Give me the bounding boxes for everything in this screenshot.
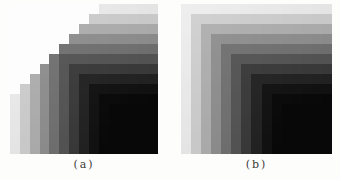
heatmap-cell <box>302 124 312 134</box>
heatmap-cell <box>221 74 231 84</box>
heatmap-cell <box>59 14 69 24</box>
heatmap-cell <box>59 4 69 14</box>
heatmap-cell <box>40 44 50 54</box>
heatmap-cell <box>89 84 99 94</box>
heatmap-cell <box>282 94 292 104</box>
heatmap-cell <box>221 24 231 34</box>
heatmap-cell <box>302 94 312 104</box>
heatmap-cell <box>148 14 158 24</box>
heatmap-cell <box>148 24 158 34</box>
heatmap-cell <box>79 144 89 154</box>
heatmap-cell <box>191 84 201 94</box>
heatmap-cell <box>69 54 79 64</box>
heatmap-cell <box>20 4 30 14</box>
heatmap-cell <box>241 94 251 104</box>
heatmap-cell <box>181 34 191 44</box>
heatmap-cell <box>89 94 99 104</box>
heatmap-cell <box>221 124 231 134</box>
heatmap-cell <box>201 74 211 84</box>
heatmap-cell <box>99 104 109 114</box>
heatmap-cell <box>119 24 129 34</box>
heatmap-cell <box>138 14 148 24</box>
heatmap-cell <box>20 54 30 64</box>
heatmap-cell <box>221 54 231 64</box>
heatmap-cell <box>49 104 59 114</box>
heatmap-cell <box>109 134 119 144</box>
heatmap-cell <box>138 64 148 74</box>
heatmap-cell <box>201 64 211 74</box>
heatmap-cell <box>128 44 138 54</box>
heatmap-cell <box>128 124 138 134</box>
heatmap-cell <box>241 74 251 84</box>
heatmap-cell <box>49 4 59 14</box>
heatmap-cell <box>119 144 129 154</box>
heatmap-cell <box>99 24 109 34</box>
caption-a: (a) <box>10 157 158 172</box>
heatmap-cell <box>262 14 272 24</box>
heatmap-cell <box>322 114 332 124</box>
heatmap-cell <box>312 24 322 34</box>
heatmap-cell <box>272 94 282 104</box>
heatmap-cell <box>241 124 251 134</box>
heatmap-cell <box>282 34 292 44</box>
heatmap-cell <box>312 74 322 84</box>
heatmap-cell <box>99 44 109 54</box>
heatmap-cell <box>10 124 20 134</box>
heatmap-cell <box>40 64 50 74</box>
heatmap-cell <box>282 144 292 154</box>
heatmap-cell <box>181 4 191 14</box>
heatmap-cell <box>241 54 251 64</box>
heatmap-cell <box>262 84 272 94</box>
heatmap-cell <box>40 104 50 114</box>
heatmap-cell <box>262 124 272 134</box>
heatmap-cell <box>30 134 40 144</box>
heatmap-cell <box>10 104 20 114</box>
heatmap-cell <box>181 104 191 114</box>
heatmap-cell <box>109 64 119 74</box>
heatmap-cell <box>20 34 30 44</box>
heatmap-cell <box>99 74 109 84</box>
heatmap-cell <box>20 44 30 54</box>
heatmap-cell <box>99 14 109 24</box>
heatmap-cell <box>181 114 191 124</box>
heatmap-cell <box>30 24 40 34</box>
heatmap-cell <box>181 24 191 34</box>
heatmap-cell <box>128 84 138 94</box>
heatmap-cell <box>79 84 89 94</box>
heatmap-cell <box>272 54 282 64</box>
heatmap-cell <box>272 14 282 24</box>
heatmap-cell <box>99 4 109 14</box>
heatmap-cell <box>251 44 261 54</box>
heatmap-cell <box>138 94 148 104</box>
heatmap-cell <box>40 84 50 94</box>
heatmap-cell <box>322 34 332 44</box>
heatmap-cell <box>89 74 99 84</box>
heatmap-cell <box>241 24 251 34</box>
heatmap-cell <box>262 4 272 14</box>
heatmap-cell <box>302 24 312 34</box>
heatmap-cell <box>20 124 30 134</box>
heatmap-cell <box>231 114 241 124</box>
heatmap-cell <box>40 144 50 154</box>
heatmap-cell <box>79 54 89 64</box>
heatmap-cell <box>292 144 302 154</box>
heatmap-cell <box>272 114 282 124</box>
heatmap-cell <box>312 144 322 154</box>
heatmap-cell <box>89 14 99 24</box>
heatmap-cell <box>109 24 119 34</box>
heatmap-cell <box>30 34 40 44</box>
heatmap-cell <box>322 84 332 94</box>
subfigure-a <box>10 4 158 154</box>
heatmap-cell <box>10 34 20 44</box>
heatmap-cell <box>282 64 292 74</box>
heatmap-cell <box>221 44 231 54</box>
heatmap-cell <box>128 94 138 104</box>
heatmap-cell <box>148 144 158 154</box>
heatmap-cell <box>201 124 211 134</box>
heatmap-cell <box>20 144 30 154</box>
heatmap-cell <box>148 74 158 84</box>
heatmap-cell <box>262 144 272 154</box>
heatmap-cell <box>20 24 30 34</box>
heatmap-cell <box>201 14 211 24</box>
heatmap-cell <box>89 4 99 14</box>
